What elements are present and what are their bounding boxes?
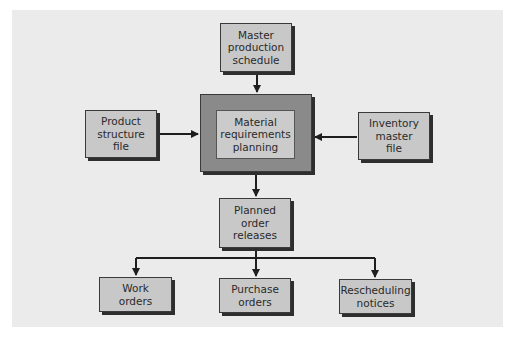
node-label: Work orders	[119, 282, 152, 307]
node-label: Product structure file	[97, 115, 145, 153]
node-work-orders: Work orders	[99, 277, 172, 312]
node-label: Material requirements planning	[220, 116, 290, 154]
node-label: Planned order releases	[233, 204, 277, 242]
node-product-structure-file: Product structure file	[85, 110, 157, 158]
node-label: Purchase orders	[231, 283, 279, 308]
node-master-production-schedule: Master production schedule	[220, 23, 292, 72]
node-purchase-orders: Purchase orders	[219, 278, 291, 313]
node-label: Inventory master file	[369, 117, 419, 155]
node-material-requirements-planning: Material requirements planning	[216, 110, 295, 159]
node-inventory-master-file: Inventory master file	[358, 112, 430, 160]
node-planned-order-releases: Planned order releases	[219, 198, 291, 248]
node-label: Rescheduling notices	[340, 284, 410, 309]
node-label: Master production schedule	[228, 29, 284, 67]
node-rescheduling-notices: Rescheduling notices	[339, 279, 412, 314]
